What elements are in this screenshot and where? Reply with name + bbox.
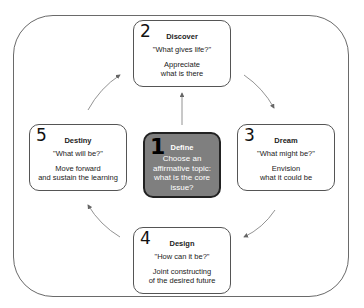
arrow-discover-to-dream [244, 75, 274, 108]
box-description: Move forward and sustain the learning [30, 164, 126, 183]
step-number: 3 [244, 127, 255, 144]
step-number: 1 [150, 136, 165, 158]
box-question: "How can it be?" [134, 252, 230, 261]
box-description: Joint constructing of the desired future [134, 267, 230, 286]
step-number: 4 [140, 230, 151, 247]
box-discover: 2 Discover "What gives life?" Appreciate… [133, 20, 231, 87]
step-number: 2 [140, 23, 151, 40]
arrow-dream-to-design [244, 210, 275, 237]
box-description: Choose an affirmative topic: what is the… [145, 154, 219, 192]
arrow-destiny-to-discover [88, 75, 120, 110]
box-question: "What might be?" [238, 149, 334, 158]
box-question: "What will be?" [30, 149, 126, 158]
box-question: "What gives life?" [134, 45, 230, 54]
box-description: Envision what it could be [238, 164, 334, 183]
box-dream: 3 Dream "What might be?" Envision what i… [237, 124, 335, 191]
step-number: 5 [36, 127, 47, 144]
arrow-design-to-destiny [88, 205, 120, 237]
box-destiny: 5 Destiny "What will be?" Move forward a… [29, 124, 127, 191]
box-design: 4 Design "How can it be?" Joint construc… [133, 227, 231, 294]
box-define: 1 Define Choose an affirmative topic: wh… [143, 132, 221, 198]
box-description: Appreciate what is there [134, 60, 230, 79]
